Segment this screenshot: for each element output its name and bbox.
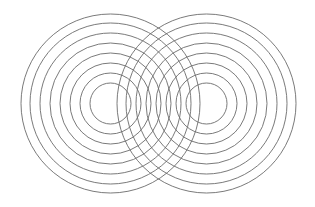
wave-interference-diagram xyxy=(0,0,315,207)
figure-canvas xyxy=(0,0,315,207)
figure-background xyxy=(0,0,315,207)
